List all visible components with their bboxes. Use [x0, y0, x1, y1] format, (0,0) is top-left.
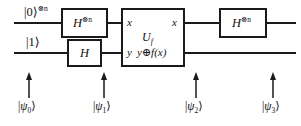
- gate-label-h-top-left: H⊗n: [73, 16, 92, 30]
- gate-label-h-bottom-left: H: [80, 46, 89, 60]
- gate-label-h-top-right: H⊗n: [232, 16, 251, 30]
- uf-port-out-top: x: [172, 17, 177, 28]
- state-label-psi1: |ψ1⟩: [93, 101, 111, 115]
- state-marker-arrow-psi0: [26, 72, 32, 98]
- state-marker-arrow-psi1: [101, 72, 107, 98]
- state-label-psi0: |ψ0⟩: [18, 101, 36, 115]
- gate-label-uf: Uf: [142, 31, 153, 46]
- uf-port-in-bottom: y: [127, 47, 132, 58]
- state-marker-arrow-psi3: [270, 72, 276, 98]
- quantum-circuit-diagram: |0⟩⊗n |1⟩ H⊗n H Uf H⊗n x y x y⊕f(x) |ψ0⟩…: [0, 0, 301, 126]
- state-label-psi2: |ψ2⟩: [185, 101, 203, 115]
- circuit-linework: [0, 0, 301, 126]
- state-label-psi3: |ψ3⟩: [262, 101, 280, 115]
- state-marker-arrow-psi2: [193, 72, 199, 98]
- uf-port-out-bottom: y⊕f(x): [137, 47, 166, 58]
- input-label-top-wire: |0⟩⊗n: [24, 5, 48, 19]
- input-label-bottom-wire: |1⟩: [26, 35, 40, 49]
- uf-port-in-top: x: [127, 17, 132, 28]
